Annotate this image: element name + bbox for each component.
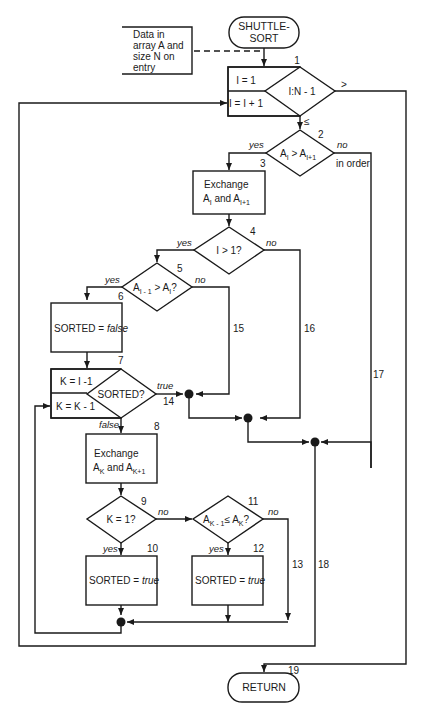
node-number: 5 [177, 263, 183, 274]
exchange-label: Exchange [204, 179, 249, 190]
branch-yes: yes [104, 274, 120, 285]
entry-note-line: Data in [133, 29, 165, 40]
start-label-line1: SHUTTLE- [238, 20, 290, 32]
node-number: 6 [118, 291, 124, 302]
branch-yes: yes [102, 543, 118, 554]
return-label: RETURN [242, 681, 286, 693]
node-number: 12 [253, 543, 265, 554]
connector-17: 17 [373, 369, 385, 380]
loop-increment: K = K - 1 [56, 401, 96, 412]
test-label: I > 1? [216, 245, 242, 256]
start-label-line2: SORT [250, 32, 280, 44]
svg-text:SORTED = true: SORTED = true [195, 575, 266, 586]
node-number: 4 [250, 226, 256, 237]
node-12-set-true: 12 SORTED = true [192, 543, 266, 605]
arrow-4-yes [157, 250, 194, 262]
loop-test: I:N - 1 [288, 86, 316, 97]
loop-increment: I = I + 1 [229, 98, 263, 109]
entry-note-line: entry [133, 62, 155, 73]
arrow-17-to-junction [321, 442, 371, 468]
node-number: 10 [147, 543, 159, 554]
node-number: 11 [248, 496, 259, 507]
path-junction-a-to-b [189, 394, 242, 418]
svg-text:SORTED = true: SORTED = true [89, 575, 160, 586]
path-junction-b-to-c [248, 418, 309, 442]
branch-no: no [337, 139, 348, 150]
start-terminal: SHUTTLE- SORT [229, 17, 299, 48]
branch-yes: yes [208, 543, 224, 554]
node-7-inner-loop: 7 K = I -1 K = K - 1 SORTED? true false [51, 355, 173, 430]
exchange-label: Exchange [94, 448, 139, 459]
node-number: 8 [154, 421, 160, 432]
in-order-note: in order [336, 158, 371, 169]
shuttle-sort-flowchart: SHUTTLE- SORT Data in array A and size N… [0, 0, 423, 715]
entry-note-line: array A and [133, 40, 184, 51]
branch-yes: yes [176, 237, 192, 248]
connector-18: 18 [318, 559, 330, 570]
connector-16: 16 [304, 323, 316, 334]
node-6-set-false: 6 SORTED = false [51, 291, 128, 352]
node-11-compare: 11 AK - 1≤ AK? yes no [193, 496, 279, 554]
node-number: 9 [141, 496, 147, 507]
branch-no: no [195, 274, 206, 285]
test-label: K = 1? [106, 514, 136, 525]
node-8-exchange: 8 Exchange AK and AK+1 [86, 421, 160, 483]
svg-text:SORTED = false: SORTED = false [54, 323, 128, 334]
node-number: 7 [118, 355, 124, 366]
connector-13: 13 [292, 559, 304, 570]
loop-init: I = 1 [236, 75, 256, 86]
arrow-5-yes [87, 287, 122, 300]
node-number: 2 [318, 129, 324, 140]
node-number: 3 [260, 158, 266, 169]
branch-false: false [99, 419, 119, 430]
path-11-no-13 [263, 519, 288, 620]
connector-15: 15 [233, 323, 245, 334]
path-2-no-17 [334, 153, 371, 468]
node-number: 1 [294, 55, 300, 66]
branch-no: no [266, 237, 277, 248]
branch-no: no [268, 506, 279, 517]
branch-true: true [157, 380, 173, 391]
loop-test: SORTED? [97, 389, 144, 400]
path-5-no-15 [192, 287, 229, 394]
branch-yes: yes [248, 139, 264, 150]
path-4-no-16 [260, 250, 300, 418]
branch-label-le: ≤ [304, 116, 310, 127]
branch-no: no [158, 506, 169, 517]
connector-14: 14 [163, 396, 175, 407]
entry-note-line: size N on [133, 51, 175, 62]
path-exit-17-19 [264, 91, 406, 672]
node-10-set-true: 10 SORTED = true [86, 543, 160, 605]
end-terminal: RETURN [228, 673, 299, 702]
branch-label-gt: > [341, 79, 347, 90]
loop-init: K = I -1 [60, 376, 93, 387]
